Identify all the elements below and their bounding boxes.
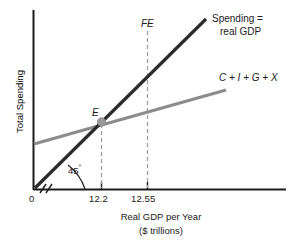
spending-line-label-line2: real GDP [220, 26, 261, 38]
expenditure-line-label: C + I + G + X [219, 72, 278, 84]
y-axis-title-wrapper: Total Spending [14, 57, 25, 147]
x-tick-label-equilibrium: 12.2 [89, 194, 108, 205]
spending-line-label-line1: Spending = [212, 13, 263, 25]
keynesian-cross-chart: Total Spending 0 12.2 12.55 Real GDP per… [0, 0, 292, 246]
x-axis-subtitle: ($ trillions) [96, 226, 226, 237]
x-axis-title: Real GDP per Year [96, 212, 226, 223]
equilibrium-point-label: E [92, 107, 99, 119]
degree-symbol: ° [79, 164, 82, 171]
equilibrium-marker [97, 118, 105, 126]
full-employment-label: FE [141, 18, 154, 30]
x-tick-label-full-employment: 12.55 [131, 194, 155, 205]
x-tick-label-origin: 0 [29, 194, 34, 205]
expenditure-line [34, 90, 226, 144]
angle-label: 45° [68, 164, 81, 177]
y-axis-title: Total Spending [14, 57, 25, 147]
angle-value: 45 [68, 165, 79, 176]
